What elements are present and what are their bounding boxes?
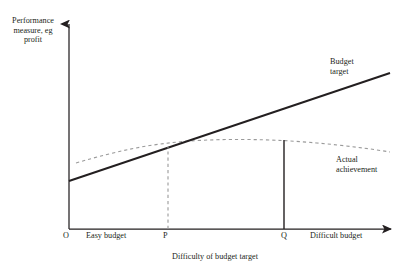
- axis-region-label-easy-budget: Easy budget: [86, 231, 126, 241]
- axis-label-point-q: Q: [281, 231, 287, 241]
- axis-region-label-difficult-budget: Difficult budget: [310, 231, 362, 241]
- axis-label-point-p: P: [163, 231, 168, 241]
- y-axis-title: Performance measure, eg profit: [4, 16, 62, 45]
- x-axis-title: Difficulty of budget target: [120, 252, 310, 262]
- axis-label-origin: O: [63, 231, 69, 241]
- series-label-actual-achievement: Actual achievement: [336, 155, 406, 174]
- series-label-budget-target: Budget target: [330, 57, 390, 76]
- budget-difficulty-performance-chart: Performance measure, eg profit Budget ta…: [0, 0, 411, 270]
